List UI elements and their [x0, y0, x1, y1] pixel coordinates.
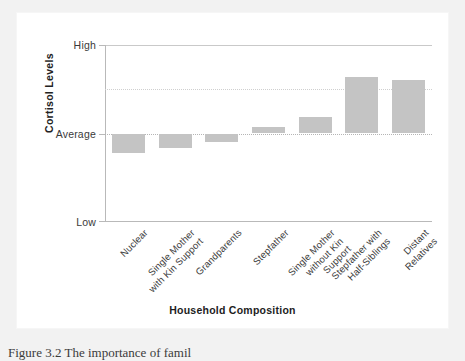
bar-series: [105, 45, 432, 222]
y-tick-label-average: Average: [56, 128, 96, 140]
bar: [252, 127, 285, 134]
bar: [299, 117, 332, 133]
bar: [345, 77, 378, 133]
chart-plot-area: Cortisol Levels High Average Low Nuclear…: [17, 13, 448, 328]
y-axis-title: Cortisol Levels: [43, 53, 55, 133]
x-axis-title: Household Composition: [17, 304, 448, 316]
plot-frame: High Average Low: [105, 45, 432, 222]
figure-caption: Figure 3.2 The importance of famil: [8, 345, 191, 361]
y-tick-label-low: Low: [76, 216, 96, 228]
bar: [159, 134, 192, 149]
bar: [392, 80, 425, 134]
y-tick-label-high: High: [74, 39, 96, 51]
bar: [112, 134, 145, 153]
figure-card: Cortisol Levels High Average Low Nuclear…: [17, 13, 448, 328]
bar: [205, 134, 238, 142]
x-tick-labels: NuclearSingle Mother with Kin SupportGra…: [105, 227, 432, 307]
